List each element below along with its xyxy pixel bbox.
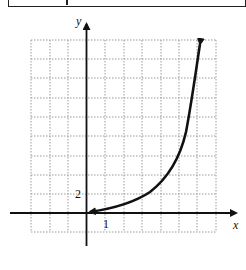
x-axis-label: x	[233, 218, 238, 233]
graph	[0, 0, 246, 270]
y-axis-label: y	[76, 14, 81, 29]
y-tick-label: 2	[75, 187, 81, 202]
curve	[90, 44, 200, 212]
x-tick-label: 1	[103, 217, 109, 232]
